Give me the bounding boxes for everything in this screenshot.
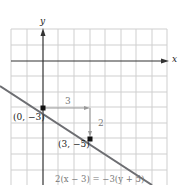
x-axis-label: x — [172, 55, 177, 64]
rise-arrow-icon — [88, 131, 92, 137]
point-label-0-neg3: (0, −3) — [13, 113, 45, 122]
x-axis-arrow-icon — [161, 59, 169, 64]
rise-label: 2 — [98, 119, 104, 128]
coordinate-plane — [0, 0, 184, 185]
point-label-3-neg5: (3, −5) — [58, 140, 90, 149]
grid — [11, 29, 167, 185]
run-label: 3 — [65, 97, 71, 106]
y-axis-label: y — [40, 17, 45, 26]
equation-label: 2(x − 3) = −3(y + 5) — [55, 175, 144, 184]
point-0-neg3 — [41, 106, 46, 111]
